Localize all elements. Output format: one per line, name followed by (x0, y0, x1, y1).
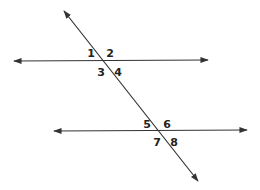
transversal-line (64, 11, 198, 181)
angle-label-1: 1 (87, 48, 95, 59)
angle-label-2: 2 (106, 48, 114, 59)
angle-label-5: 5 (143, 119, 151, 130)
angle-label-4: 4 (114, 67, 122, 78)
top-parallel-line (14, 60, 208, 61)
angle-label-7: 7 (153, 137, 161, 148)
angle-label-3: 3 (97, 67, 105, 78)
angle-label-8: 8 (170, 137, 178, 148)
angle-label-6: 6 (163, 119, 171, 130)
diagram-canvas (0, 0, 260, 190)
